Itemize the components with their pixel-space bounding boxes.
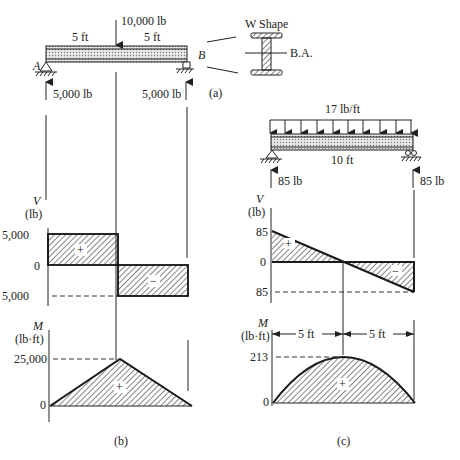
moment-tick-top: 25,000	[14, 352, 47, 366]
reaction-left-label: 5,000 lb	[53, 87, 92, 101]
beam-diagrams: 10,000 lb 5 ft 5 ft A B 5,000 lb 5,000 l…	[0, 0, 460, 460]
roller-support-c-icon	[401, 151, 421, 162]
beam-a	[46, 46, 187, 62]
shear-axis-unit: (lb)	[25, 207, 42, 221]
dim-left-label: 5 ft	[298, 327, 315, 341]
moment-diagram-c: M (lb·ft) 5 ft 5 ft 213 0 +	[241, 316, 415, 409]
moment-diagram-b: M (lb·ft) 25,000 0 +	[14, 319, 192, 422]
distributed-load-arrows	[270, 120, 412, 133]
caption-a: (a)	[209, 86, 222, 100]
shear-diagram-b: V (lb) 5,000 0 5,000 + −	[2, 194, 188, 306]
shear-tick-top: 5,000	[2, 228, 29, 242]
support-b-label: B	[198, 48, 206, 62]
dim-right-label: 5 ft	[369, 327, 386, 341]
reaction-left-c-label: 85 lb	[278, 174, 302, 188]
neutral-axis-label: B.A.	[290, 46, 313, 60]
span-left-label: 5 ft	[72, 30, 89, 44]
moment-sign-positive: +	[116, 380, 123, 394]
support-a-label: A	[32, 59, 41, 73]
shear-c-tick-bottom: 85	[256, 285, 268, 299]
reaction-right-c-label: 85 lb	[420, 174, 444, 188]
moment-c-sign-positive: +	[339, 377, 346, 391]
moment-c-tick-zero: 0	[263, 395, 269, 409]
shear-c-tick-zero: 0	[260, 255, 266, 269]
moment-c-axis-symbol: M	[257, 316, 269, 330]
w-shape-section-icon	[245, 33, 287, 75]
beam-c	[271, 134, 413, 150]
span-right-label: 5 ft	[144, 30, 161, 44]
reaction-right-label: 5,000 lb	[142, 87, 181, 101]
caption-b: (b)	[114, 434, 128, 448]
shear-c-tick-top: 85	[256, 225, 268, 239]
shear-sign-negative: −	[150, 274, 157, 288]
figure-c: 17 lb/ft	[241, 102, 444, 448]
callout-line-top	[207, 37, 236, 42]
shear-c-sign-negative: −	[392, 264, 399, 278]
shear-sign-positive: +	[77, 243, 84, 257]
moment-axis-symbol: M	[32, 319, 44, 333]
moment-c-axis-unit: (lb·ft)	[241, 329, 270, 343]
moment-tick-zero: 0	[40, 398, 46, 412]
figure-b: V (lb) 5,000 0 5,000 + − M (lb·ft) 25,00…	[2, 194, 192, 448]
point-load-label: 10,000 lb	[121, 14, 166, 28]
distributed-load-label: 17 lb/ft	[325, 102, 361, 116]
shear-tick-bottom: 5,000	[2, 289, 29, 303]
span-label-c: 10 ft	[331, 153, 354, 167]
roller-support-icon	[176, 62, 194, 73]
moment-axis-unit: (lb·ft)	[15, 332, 44, 346]
shear-c-sign-positive: +	[285, 237, 292, 251]
pin-support-c-icon	[260, 150, 282, 163]
shear-c-axis-unit: (lb)	[248, 205, 265, 219]
shear-tick-zero: 0	[34, 259, 40, 273]
callout-line-bottom	[207, 67, 238, 73]
shear-axis-symbol: V	[33, 194, 42, 208]
section-title: W Shape	[245, 17, 288, 31]
shear-c-axis-symbol: V	[256, 192, 265, 206]
moment-c-tick-top: 213	[250, 350, 268, 364]
caption-c: (c)	[337, 434, 350, 448]
